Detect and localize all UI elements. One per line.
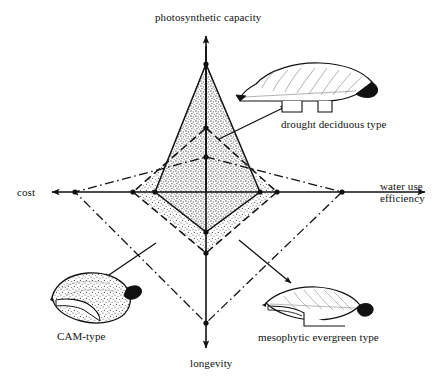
axis-label-photosynthetic-capacity: photosynthetic capacity [155,11,261,23]
vertex-dd-top [203,61,208,66]
arrow-to-mesophytic-evergreen [239,240,291,283]
callout-label-drought-deciduous: drought deciduous type [281,118,386,130]
vertex-cam-right [339,189,344,194]
radar-canvas [0,0,434,381]
radar-figure: photosynthetic capacity water use effici… [0,0,434,381]
vertex-me-top [203,125,208,130]
leaf-cam-type [50,273,142,323]
axis-label-water-use-efficiency-line2: efficiency [380,192,425,204]
vertex-dd-bottom [203,229,208,234]
vertex-me-bottom [203,250,208,255]
axis-label-water-use-efficiency-line1: water use [380,180,425,192]
axis-label-water-use-efficiency: water use efficiency [380,180,425,204]
vertex-cam-top [203,154,208,159]
vertex-dd-right [257,189,262,194]
axis-label-longevity: longevity [190,357,232,369]
leaf-drought-deciduous [236,63,378,112]
arrow-to-cam-type [103,243,156,279]
callout-label-cam-type: CAM-type [57,330,105,342]
vertex-me-left [130,189,135,194]
vertex-cam-left [72,189,77,194]
axis-label-cost: cost [17,186,35,198]
vertex-me-right [274,189,279,194]
vertex-cam-bottom [203,320,208,325]
callout-label-mesophytic-evergreen: mesophytic evergreen type [258,331,379,343]
vertex-dd-left [152,189,157,194]
leaf-mesophytic-evergreen [262,287,373,326]
